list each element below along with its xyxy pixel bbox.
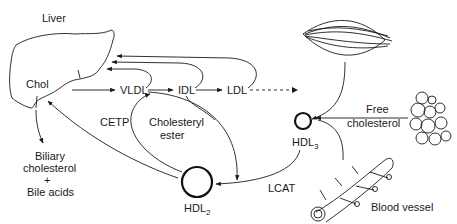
hdl3-circle (295, 113, 311, 129)
biliary-label: Biliary (35, 150, 65, 162)
free-label: Free (366, 103, 389, 115)
hdl2-circle (182, 167, 212, 197)
arrow-vessel-to-hdl3 (318, 120, 343, 160)
arrow-hdl3-to-hdl2-lcat (216, 150, 300, 184)
cholesterol-transport-diagram: Liver Chol VLDL IDL LDL Biliary choleste… (0, 0, 457, 224)
chol-label: Chol (26, 78, 49, 90)
cetp-label: CETP (100, 116, 129, 128)
bile-acids-label: Bile acids (27, 186, 75, 198)
idl-label: IDL (178, 84, 195, 96)
hdl3-label: HDL3 (292, 136, 319, 151)
hdl2-label: HDL2 (184, 202, 211, 217)
vldl-label: VLDL (120, 84, 148, 96)
muscle-icon (303, 20, 392, 55)
arrow-muscle-to-hdl3 (312, 62, 345, 119)
lcat-label: LCAT (268, 182, 296, 194)
ldl-label: LDL (227, 84, 247, 96)
arrow-chol-to-biliary (36, 110, 43, 143)
ester-label: ester (160, 129, 185, 141)
liver-shape (10, 30, 114, 108)
biliary-cholesterol-label: cholesterol (23, 162, 76, 174)
plus-label: + (44, 174, 50, 186)
cholesteryl-label: Cholesteryl (149, 116, 204, 128)
free-cholesterol-label: cholesterol (347, 117, 400, 129)
blood-vessel-label: Blood vessel (371, 201, 433, 213)
adipose-cells-icon (410, 92, 451, 145)
liver-label: Liver (42, 12, 66, 24)
